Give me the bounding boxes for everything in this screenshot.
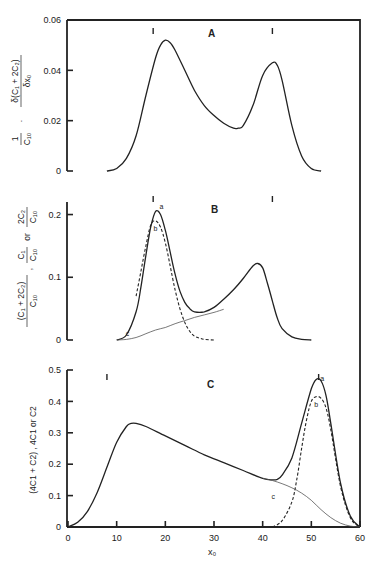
svg-text:,: , [24, 268, 34, 270]
svg-text:δ(C₁ + 2C₂): δ(C₁ + 2C₂) [10, 59, 20, 102]
y-tick-label: 0.2 [48, 459, 61, 469]
panel-b: 00.10.2 B abc (C₁ + 2C₂) C₁₀ , C₁ C₁₀ or… [16, 196, 311, 345]
x-axis-label: x₀ [208, 547, 217, 557]
svg-text:C₁: C₁ [16, 250, 26, 259]
panel-c-curves: abc [68, 375, 360, 527]
panel-a-ylabel: 1 C₁₀ · δ(C₁ + 2C₂) δx₀ [10, 55, 32, 145]
svg-text:C₁₀: C₁₀ [28, 210, 38, 223]
panel-c: 00.10.20.30.40.5 0102030405060 C abc (4C… [28, 365, 365, 557]
panel-b-markers [153, 196, 272, 202]
svg-text:1: 1 [10, 136, 20, 141]
curve-c [117, 309, 224, 340]
panel-b-y-ticks: 00.10.2 [48, 210, 73, 345]
figure-canvas: 00.020.040.06 A 1 C₁₀ · δ(C₁ + 2C₂) δx₀ … [0, 0, 378, 566]
curve-label-b: b [314, 401, 318, 408]
x-tick-label: 0 [65, 533, 70, 543]
curve-a [117, 211, 312, 340]
y-tick-label: 0.4 [48, 397, 61, 407]
y-tick-label: 0.5 [48, 365, 61, 375]
x-tick-label: 60 [355, 533, 365, 543]
y-tick-label: 0 [56, 166, 61, 176]
panel-c-y-ticks: 00.10.20.30.40.5 [48, 365, 73, 532]
svg-text:(C₁ + 2C₂): (C₁ + 2C₂) [16, 282, 26, 321]
x-tick-label: 30 [209, 533, 219, 543]
panel-c-letter: C [207, 379, 214, 390]
curve-distribution [107, 40, 321, 171]
panel-b-letter: B [211, 204, 218, 215]
svg-text:·: · [16, 120, 26, 123]
panel-c-ylabel: (4C1 + C2) , 4C1 or C2 [28, 406, 38, 494]
x-tick-label: 40 [258, 533, 268, 543]
y-tick-label: 0.1 [48, 491, 61, 501]
panel-b-ylabel: (C₁ + 2C₂) C₁₀ , C₁ C₁₀ or 2C₂ C₁₀ [16, 207, 38, 327]
curve-label-a: a [320, 375, 324, 382]
y-tick-label: 0.04 [43, 66, 61, 76]
y-tick-label: 0.3 [48, 428, 61, 438]
panel-a: 00.020.040.06 A 1 C₁₀ · δ(C₁ + 2C₂) δx₀ [10, 15, 321, 176]
y-tick-label: 0.02 [43, 116, 61, 126]
panel-a-y-ticks: 00.020.040.06 [43, 15, 73, 176]
svg-text:δx₀: δx₀ [22, 74, 32, 87]
panel-a-curves [107, 40, 321, 171]
x-axis-ticks: 0102030405060 [65, 521, 365, 543]
svg-text:C₁₀: C₁₀ [22, 132, 32, 145]
svg-text:C₁₀: C₁₀ [28, 294, 38, 307]
y-tick-label: 0.1 [48, 272, 61, 282]
figure-frame [67, 20, 360, 527]
svg-text:2C₂: 2C₂ [16, 210, 26, 224]
panel-a-letter: A [208, 28, 215, 39]
x-tick-label: 20 [160, 533, 170, 543]
curve-label-c: c [272, 493, 276, 500]
y-tick-label: 0 [56, 522, 61, 532]
panel-b-curves: abc [117, 203, 312, 340]
curve-b [136, 221, 214, 340]
y-tick-label: 0.06 [43, 15, 61, 25]
y-tick-label: 0 [56, 335, 61, 345]
y-tick-label: 0.2 [48, 210, 61, 220]
svg-text:C₁₀: C₁₀ [28, 248, 38, 261]
svg-text:or: or [22, 233, 32, 241]
x-tick-label: 10 [112, 533, 122, 543]
curve-label-c: c [126, 330, 130, 337]
curve-label-b: b [154, 225, 158, 232]
x-tick-label: 50 [306, 533, 316, 543]
curve-label-a: a [160, 203, 164, 210]
